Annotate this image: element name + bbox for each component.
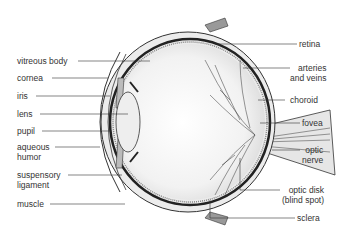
label-arteries-line1: arteries bbox=[290, 63, 326, 73]
label-optic-disk-line1: optic disk bbox=[282, 185, 324, 195]
label-suspensory-line2: ligament bbox=[17, 180, 60, 190]
label-optic-nerve-line1: optic bbox=[302, 145, 323, 155]
label-aqueous-line2: humor bbox=[17, 152, 50, 162]
label-optic-disk-line2: (blind spot) bbox=[282, 195, 324, 205]
label-cornea: cornea bbox=[17, 73, 43, 83]
label-fovea: fovea bbox=[302, 118, 323, 128]
label-pupil: pupil bbox=[17, 126, 35, 136]
label-muscle: muscle bbox=[17, 199, 44, 209]
label-aqueous-line1: aqueous bbox=[17, 142, 50, 152]
label-arteries-and-veins: arteries and veins bbox=[290, 63, 326, 83]
label-optic-nerve: optic nerve bbox=[302, 145, 323, 165]
label-choroid: choroid bbox=[290, 95, 318, 105]
label-optic-disk: optic disk (blind spot) bbox=[282, 185, 324, 205]
label-iris: iris bbox=[17, 91, 28, 101]
label-sclera: sclera bbox=[297, 213, 320, 223]
label-aqueous-humor: aqueous humor bbox=[17, 142, 50, 162]
label-vitreous-body: vitreous body bbox=[17, 56, 68, 66]
label-optic-nerve-line2: nerve bbox=[302, 155, 323, 165]
label-suspensory-ligament: suspensory ligament bbox=[17, 170, 60, 190]
label-suspensory-line1: suspensory bbox=[17, 170, 60, 180]
label-retina: retina bbox=[299, 39, 320, 49]
label-arteries-line2: and veins bbox=[290, 73, 326, 83]
label-lens: lens bbox=[17, 109, 33, 119]
lens-shape bbox=[116, 92, 140, 152]
